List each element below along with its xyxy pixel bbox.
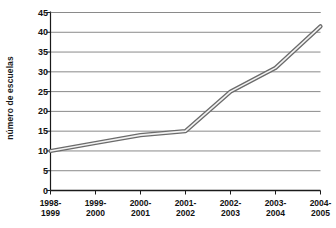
axis-lines <box>51 12 321 191</box>
line-chart: número de escuelas 051015202530354045 19… <box>0 0 336 228</box>
series-outline <box>51 26 321 151</box>
gridlines <box>51 13 321 191</box>
plot-area <box>0 0 336 228</box>
data-series-line <box>51 26 321 151</box>
